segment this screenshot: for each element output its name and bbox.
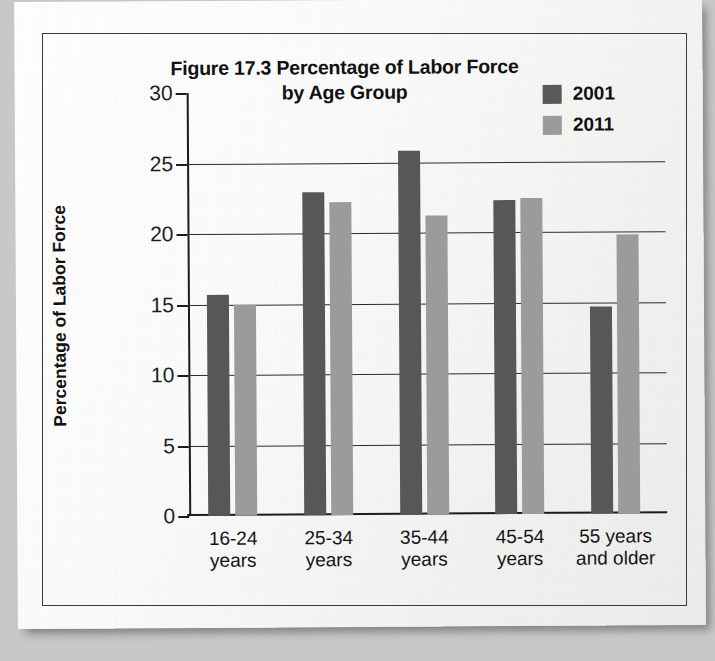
x-category-label-line: 55 years: [576, 525, 655, 548]
y-tick-10: [177, 375, 188, 377]
x-category-label-line: 45-54: [496, 526, 545, 549]
x-category-label-line: 16-24: [209, 528, 258, 551]
y-tick-5: [178, 446, 189, 448]
x-category-label-25-34-years: 25-34years: [304, 527, 353, 572]
chart-title-line-1: Figure 17.3 Percentage of Labor Force: [164, 54, 524, 81]
bar-2001-16-24-years: [207, 294, 230, 515]
bar-2001-55-years-and-older: [590, 306, 613, 513]
x-category-label-line: 25-34: [304, 527, 353, 550]
x-category-label-line: years: [400, 549, 449, 572]
y-tick-30: [176, 93, 187, 95]
x-category-label-line: years: [209, 550, 258, 573]
plot-area: 051015202530 16-24years25-34years35-44ye…: [187, 90, 668, 516]
bar-2001-45-54-years: [493, 200, 517, 515]
y-tick-label-15: 15: [151, 293, 175, 317]
y-tick-label-10: 10: [151, 363, 175, 387]
bar-2001-25-34-years: [302, 192, 326, 515]
bar-2011-16-24-years: [234, 304, 257, 516]
y-tick-25: [176, 164, 187, 166]
bar-2011-55-years-and-older: [616, 234, 640, 513]
x-category-label-line: years: [496, 548, 545, 571]
y-tick-20: [177, 234, 188, 236]
x-category-label-55-years-and-older: 55 yearsand older: [576, 525, 656, 570]
x-category-label-16-24-years: 16-24years: [209, 528, 258, 573]
y-tick-label-30: 30: [149, 81, 173, 105]
bar-2011-35-44-years: [425, 216, 449, 515]
bar-2011-45-54-years: [520, 198, 544, 514]
x-category-label-35-44-years: 35-44years: [400, 526, 449, 571]
x-category-label-line: and older: [576, 548, 655, 571]
x-category-label-45-54-years: 45-54years: [496, 526, 545, 571]
x-category-label-line: years: [305, 549, 354, 572]
y-tick-0: [178, 516, 189, 518]
gridline-25: [187, 161, 665, 165]
x-category-label-line: 35-44: [400, 526, 449, 549]
bar-2001-35-44-years: [398, 151, 422, 515]
y-tick-label-0: 0: [163, 504, 175, 528]
bar-2011-25-34-years: [329, 202, 353, 515]
y-tick-label-5: 5: [163, 434, 175, 458]
y-tick-label-20: 20: [150, 222, 174, 246]
y-tick-label-25: 25: [150, 152, 174, 176]
y-tick-15: [177, 305, 188, 307]
y-axis-title: Percentage of Labor Force: [49, 204, 71, 426]
